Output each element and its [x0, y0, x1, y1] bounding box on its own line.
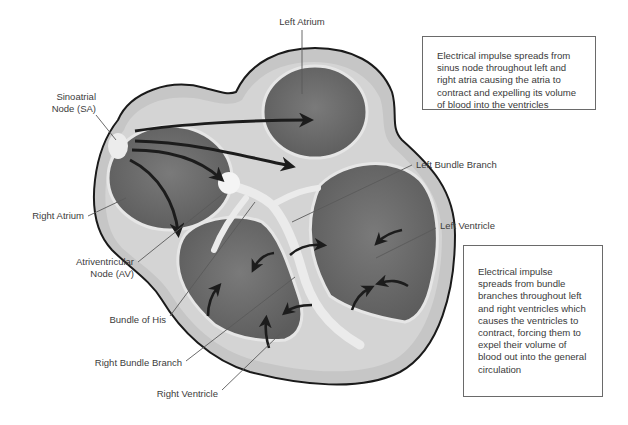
label-av-node-line2: Node (AV): [44, 268, 134, 280]
label-sa-node-line1: Sinoatrial: [30, 91, 96, 103]
label-right-atrium: Right Atrium: [8, 210, 84, 222]
label-left-ventricle: Left Ventricle: [440, 220, 495, 232]
av-node: [218, 172, 240, 194]
label-av-node-line1: Atriventricular: [44, 256, 134, 268]
sa-node: [108, 133, 128, 159]
label-sa-node-line2: Node (SA): [30, 103, 96, 115]
label-left-bundle-branch: Left Bundle Branch: [416, 159, 497, 171]
left-atrium-chamber: [263, 66, 367, 158]
label-right-bundle-branch: Right Bundle Branch: [60, 357, 182, 369]
note-atria-contraction: Electrical impulse spreads from sinus no…: [422, 36, 596, 110]
label-bundle-of-his: Bundle of His: [80, 314, 166, 326]
label-right-ventricle: Right Ventricle: [120, 388, 218, 400]
note-ventricles-text: Electrical impulse spreads from bundle b…: [478, 266, 588, 376]
note-atria-text: Electrical impulse spreads from sinus no…: [437, 50, 581, 111]
label-left-atrium: Left Atrium: [259, 16, 345, 28]
note-ventricle-contraction: Electrical impulse spreads from bundle b…: [463, 245, 603, 397]
